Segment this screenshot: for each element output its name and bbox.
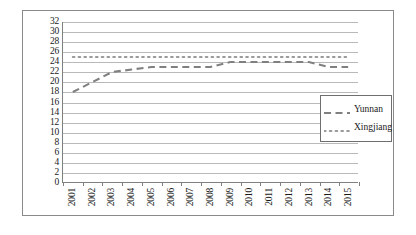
x-tick-label: 2004 <box>127 188 137 206</box>
x-tick-mark <box>181 182 182 186</box>
x-tick-mark <box>142 182 143 186</box>
y-tick-label: 12 <box>50 118 59 128</box>
x-tick-label: 2008 <box>206 188 216 206</box>
x-tick-label: 2014 <box>324 188 334 206</box>
legend-label-yunnan: Yunnan <box>354 104 383 114</box>
x-tick-mark <box>162 182 163 186</box>
x-tick-mark <box>201 182 202 186</box>
x-tick-label: 2007 <box>186 188 196 206</box>
y-tick-label: 28 <box>50 37 59 47</box>
legend-item-yunnan: Yunnan <box>324 100 388 118</box>
x-tick-mark <box>359 182 360 186</box>
y-tick-label: 14 <box>50 108 59 118</box>
x-tick-mark <box>102 182 103 186</box>
x-tick-mark <box>221 182 222 186</box>
legend-item-xingjiang: Xingjiang <box>324 118 388 136</box>
y-tick-label: 0 <box>54 178 59 188</box>
x-tick-mark <box>280 182 281 186</box>
y-tick-label: 32 <box>50 17 59 27</box>
x-tick-label: 2005 <box>147 188 157 206</box>
chart-legend: Yunnan Xingjiang <box>320 95 392 142</box>
x-tick-label: 2001 <box>68 188 78 206</box>
x-tick-mark <box>320 182 321 186</box>
x-tick-label: 2002 <box>88 188 98 206</box>
x-tick-mark <box>122 182 123 186</box>
x-tick-mark <box>241 182 242 186</box>
x-tick-label: 2015 <box>344 188 354 206</box>
y-tick-label: 2 <box>54 168 59 178</box>
x-tick-mark <box>300 182 301 186</box>
y-tick-label: 16 <box>50 98 59 108</box>
y-tick-label: 26 <box>50 47 59 57</box>
x-tick-mark <box>260 182 261 186</box>
y-tick-label: 8 <box>54 138 59 148</box>
x-tick-label: 2003 <box>107 188 117 206</box>
x-tick-label: 2010 <box>245 188 255 206</box>
y-tick-label: 24 <box>50 58 59 68</box>
y-tick-label: 30 <box>50 27 59 37</box>
series-line-yunnan <box>73 62 348 92</box>
chart-frame: 32302826242220181614121086420 2001200220… <box>22 10 394 216</box>
y-tick-label: 6 <box>54 148 59 158</box>
x-tick-label: 2011 <box>265 188 275 206</box>
legend-label-xingjiang: Xingjiang <box>354 122 392 132</box>
legend-swatch-dotted-icon <box>324 122 350 132</box>
y-tick-label: 20 <box>50 78 59 88</box>
y-tick-label: 22 <box>50 68 59 78</box>
x-tick-label: 2012 <box>285 188 295 206</box>
y-tick-label: 10 <box>50 128 59 138</box>
x-tick-label: 2006 <box>167 188 177 206</box>
y-tick-label: 4 <box>54 158 59 168</box>
x-tick-label: 2009 <box>226 188 236 206</box>
y-tick-label: 18 <box>50 88 59 98</box>
x-tick-label: 2013 <box>305 188 315 206</box>
x-tick-mark <box>83 182 84 186</box>
x-tick-mark <box>339 182 340 186</box>
x-tick-mark <box>63 182 64 186</box>
legend-swatch-dashed-icon <box>324 104 350 114</box>
series-plot <box>63 22 358 182</box>
plot-area: 32302826242220181614121086420 2001200220… <box>62 22 358 183</box>
